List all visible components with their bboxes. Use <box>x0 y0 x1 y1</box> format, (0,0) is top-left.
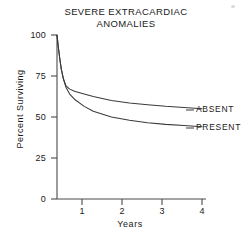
y-tick-label-100: 100 <box>20 30 46 40</box>
x-tick-label-4: 4 <box>194 206 210 216</box>
x-tick-label-1: 1 <box>74 206 90 216</box>
survival-curve-absent <box>57 35 202 109</box>
x-axis-title: Years <box>100 219 160 229</box>
x-tick-label-3: 3 <box>154 206 170 216</box>
y-tick-label-0: 0 <box>20 194 46 204</box>
x-tick-label-2: 2 <box>114 206 130 216</box>
x-axis-ticks <box>82 199 202 205</box>
series-label-present: PRESENT <box>196 122 241 132</box>
survival-curve-present <box>57 35 202 127</box>
survival-chart: SEVERE EXTRACARDIAC ANOMALIES 100 <box>0 0 241 241</box>
y-axis-title: Percent Surviving <box>15 61 25 157</box>
y-axis-ticks <box>51 35 57 199</box>
series-label-absent: ABSENT <box>196 104 234 114</box>
